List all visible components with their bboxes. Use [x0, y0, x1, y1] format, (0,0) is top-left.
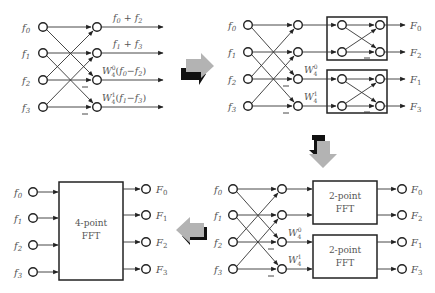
- input-label-f1: f1: [213, 210, 222, 223]
- output-label-F2: F2: [155, 237, 167, 250]
- output-node: [93, 103, 102, 112]
- output-label-F0: F0: [409, 20, 421, 33]
- input-label-f0: f0: [21, 22, 31, 35]
- panel-four-point-block: f0 f1 f2 f3 4-point FFT F0 F1 F2 F3: [13, 182, 167, 280]
- input-label-f3: f3: [227, 101, 237, 114]
- two-point-fft-block-2: [313, 235, 377, 278]
- input-label-f2: f2: [213, 237, 223, 250]
- output-label-F0: F0: [155, 184, 167, 197]
- panel-butterfly: f0 f1 f2 f3 f0 + f2 f1 + f3: [21, 12, 163, 115]
- input-label-f1: f1: [13, 213, 22, 226]
- fft-diagram: f0 f1 f2 f3 f0 + f2 f1 + f3: [0, 0, 435, 293]
- output-label-sum-1: f1 + f3: [112, 38, 142, 51]
- output-label-F2: F2: [409, 47, 421, 60]
- input-label-f1: f1: [21, 48, 30, 61]
- block-label: 2-point: [329, 191, 362, 201]
- output-label-F3: F3: [155, 264, 167, 277]
- output-label-F3: F3: [410, 264, 422, 277]
- block-label: FFT: [336, 258, 355, 268]
- twiddle-label-w0: W04: [288, 226, 302, 240]
- input-label-f2: f2: [21, 75, 31, 88]
- output-label-F0: F0: [410, 184, 422, 197]
- block-label: FFT: [336, 204, 355, 214]
- twiddle-label-w0: W04: [304, 63, 318, 77]
- output-label-F1: F1: [409, 74, 421, 87]
- panel-two-point-blocks: f0 f1 f2 f3 W04 W14 2-point FFT 2-point: [213, 181, 422, 278]
- output-label-diff-1: W14(f1−f3): [102, 91, 146, 105]
- block-label: FFT: [82, 231, 101, 241]
- input-label-f2: f2: [13, 240, 23, 253]
- block-label: 4-point: [75, 218, 108, 228]
- input-node: [39, 76, 48, 85]
- output-node: [93, 76, 102, 85]
- input-label-f0: f0: [213, 184, 223, 197]
- twiddle-label-w1: W14: [288, 253, 302, 267]
- input-node: [39, 23, 48, 32]
- flow-arrow-left-icon: [176, 217, 207, 245]
- block-label: 2-point: [329, 245, 362, 255]
- output-label-sum-0: f0 + f2: [112, 12, 142, 25]
- input-label-f1: f1: [227, 47, 236, 60]
- output-label-F1: F1: [155, 210, 167, 223]
- output-node: [93, 49, 102, 58]
- flow-arrow-down-icon: [309, 135, 337, 168]
- input-label-f0: f0: [227, 20, 237, 33]
- input-label-f3: f3: [213, 264, 223, 277]
- output-label-diff-0: W04(f0−f2): [102, 64, 146, 78]
- output-label-F3: F3: [409, 101, 421, 114]
- input-node: [39, 103, 48, 112]
- input-label-f2: f2: [227, 74, 237, 87]
- twiddle-label-w1: W14: [304, 90, 318, 104]
- output-label-F1: F1: [410, 237, 422, 250]
- output-node: [93, 23, 102, 32]
- panel-two-stage: f0 f1 f2 f3 W04 W14: [227, 17, 421, 114]
- flow-arrow-right-icon: [181, 53, 214, 85]
- input-node: [39, 49, 48, 58]
- input-label-f0: f0: [13, 187, 23, 200]
- two-point-fft-block-1: [313, 181, 377, 224]
- input-label-f3: f3: [21, 102, 31, 115]
- input-label-f3: f3: [13, 267, 23, 280]
- output-label-F2: F2: [410, 210, 422, 223]
